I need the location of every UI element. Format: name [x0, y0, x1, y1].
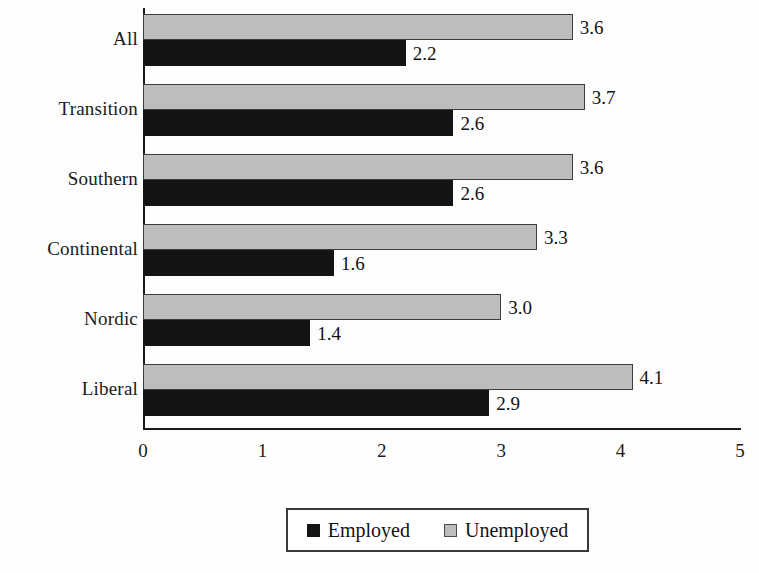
y-axis-label-southern: Southern [3, 168, 138, 190]
bar-value-label-employed: 2.6 [460, 114, 484, 133]
bar-employed[interactable] [143, 180, 453, 206]
bar-group: 3.31.6 [143, 218, 740, 288]
x-axis-line [143, 428, 741, 430]
bar-value-label-unemployed: 4.1 [640, 368, 664, 387]
plot-area: 3.62.23.72.63.62.63.31.63.01.44.12.9 [143, 8, 740, 428]
gray-square-icon [444, 524, 457, 537]
legend-entry-unemployed[interactable]: Unemployed [444, 519, 568, 542]
bar-group: 3.01.4 [143, 288, 740, 358]
bar-value-label-employed: 2.2 [413, 44, 437, 63]
x-tick-1: 1 [242, 440, 282, 462]
y-axis-label-transition: Transition [3, 98, 138, 120]
legend-label: Unemployed [465, 519, 568, 542]
bar-group: 3.62.6 [143, 148, 740, 218]
bar-unemployed[interactable] [143, 154, 573, 180]
bar-value-label-employed: 1.6 [341, 254, 365, 273]
y-axis-category-labels: AllTransitionSouthernContinentalNordicLi… [0, 8, 138, 428]
bar-unemployed[interactable] [143, 84, 585, 110]
y-axis-label-liberal: Liberal [3, 378, 138, 400]
x-tick-3: 3 [481, 440, 521, 462]
bar-employed[interactable] [143, 250, 334, 276]
bar-unemployed[interactable] [143, 294, 501, 320]
bar-value-label-unemployed: 3.0 [508, 298, 532, 317]
bar-value-label-unemployed: 3.7 [592, 88, 616, 107]
x-axis-tick-labels: 012345 [143, 440, 741, 470]
bar-group: 4.12.9 [143, 358, 740, 428]
bar-unemployed[interactable] [143, 14, 573, 40]
bar-group: 3.62.2 [143, 8, 740, 78]
x-tick-0: 0 [123, 440, 163, 462]
bar-unemployed[interactable] [143, 364, 633, 390]
legend-label: Employed [328, 519, 410, 542]
bar-value-label-unemployed: 3.6 [580, 158, 604, 177]
bar-employed[interactable] [143, 40, 406, 66]
y-axis-label-continental: Continental [3, 238, 138, 260]
bar-chart: AllTransitionSouthernContinentalNordicLi… [0, 0, 759, 573]
bar-value-label-unemployed: 3.3 [544, 228, 568, 247]
bar-value-label-employed: 2.6 [460, 184, 484, 203]
x-tick-5: 5 [720, 440, 759, 462]
bar-value-label-employed: 2.9 [496, 394, 520, 413]
bar-value-label-unemployed: 3.6 [580, 18, 604, 37]
bar-employed[interactable] [143, 320, 310, 346]
bar-unemployed[interactable] [143, 224, 537, 250]
black-square-icon [307, 524, 320, 537]
x-tick-4: 4 [601, 440, 641, 462]
bar-employed[interactable] [143, 390, 489, 416]
legend-entry-employed[interactable]: Employed [307, 519, 410, 542]
y-axis-label-nordic: Nordic [3, 308, 138, 330]
bar-value-label-employed: 1.4 [317, 324, 341, 343]
y-axis-label-all: All [3, 28, 138, 50]
chart-legend: EmployedUnemployed [286, 508, 589, 552]
x-tick-2: 2 [362, 440, 402, 462]
bar-employed[interactable] [143, 110, 453, 136]
bar-group: 3.72.6 [143, 78, 740, 148]
